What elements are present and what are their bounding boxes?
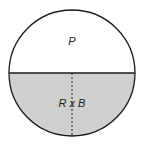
top-label: P [68,35,76,47]
circle-diagram: P R x B [0,0,144,148]
bottom-label: R x B [59,97,86,109]
